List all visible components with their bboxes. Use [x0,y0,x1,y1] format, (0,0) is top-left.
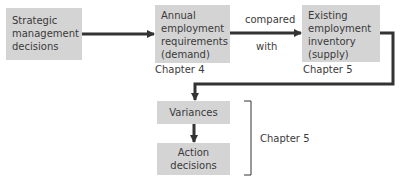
supply-box: Existing employment inventory (supply) [302,5,380,62]
variances-text: Variances [163,106,224,119]
action-decisions-box: Action decisions [157,143,230,175]
compared-label: compared [245,14,295,26]
supply-text: Existing employment inventory (supply) [308,9,374,61]
demand-chapter-label: Chapter 4 [155,64,205,76]
supply-chapter-label: Chapter 5 [303,64,353,76]
strategic-decisions-box: Strategic management decisions [6,8,82,60]
variances-box: Variances [157,101,230,124]
demand-text: Annual employment requirements (demand) [161,9,224,61]
bracket-chapter-label: Chapter 5 [260,133,310,145]
strategic-decisions-text: Strategic management decisions [12,14,76,53]
with-label: with [256,41,277,53]
action-decisions-text: Action decisions [163,146,224,172]
demand-box: Annual employment requirements (demand) [155,5,230,63]
